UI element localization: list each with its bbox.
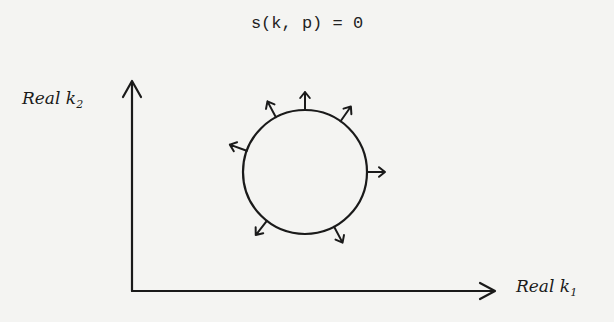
region-circle [243, 110, 367, 234]
normal-arrow-icon [230, 142, 247, 151]
normal-arrow-icon [266, 101, 276, 117]
normal-arrow-icon [341, 106, 352, 121]
normal-arrow-icon [256, 221, 267, 235]
normal-arrow-icon [300, 92, 310, 110]
diagram-canvas [0, 0, 614, 322]
normal-arrow-icon [334, 227, 344, 243]
normal-arrow-icon [367, 167, 385, 177]
outward-normal-arrows [230, 92, 385, 243]
